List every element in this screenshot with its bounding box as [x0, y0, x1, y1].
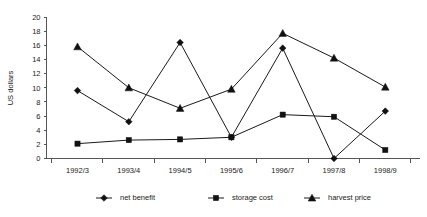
x-axis-label-1996-7: 1996/7: [271, 166, 294, 175]
diamond-marker: [101, 195, 108, 202]
data-point-harvest-price-1994-5: [176, 104, 184, 111]
x-axis-label-1997-8: 1997/8: [323, 166, 346, 175]
y-tick-label: 16: [32, 41, 40, 50]
data-point-storage-cost-1992-3: [75, 141, 80, 146]
x-axis-label-1998-9: 1998/9: [374, 166, 397, 175]
line-chart: US dollars 02468101214161820 1992/31993/…: [0, 0, 427, 217]
y-tick-label: 18: [32, 27, 40, 36]
legend-label-net-benefit: net benefit: [120, 193, 156, 202]
square-marker: [213, 195, 218, 200]
y-tick-label: 8: [36, 98, 40, 107]
series-line-harvest-price: [78, 33, 386, 108]
chart-container: US dollars 02468101214161820 1992/31993/…: [0, 0, 427, 217]
data-point-net-benefit-1993-4: [126, 118, 133, 125]
data-point-storage-cost-1997-8: [331, 114, 336, 119]
data-point-net-benefit-1994-5: [177, 39, 184, 46]
series-line-net-benefit: [78, 42, 386, 158]
data-point-storage-cost-1995-6: [229, 135, 234, 140]
y-axis-title: US dollars: [6, 70, 15, 105]
data-point-storage-cost-1998-9: [383, 147, 388, 152]
y-tick-label: 4: [36, 126, 40, 135]
y-axis-ticks: 02468101214161820: [32, 13, 46, 164]
x-axis-label-1995-6: 1995/6: [220, 166, 243, 175]
y-tick-label: 12: [32, 69, 40, 78]
legend-label-harvest-price: harvest price: [328, 193, 371, 202]
x-axis-ticks: [52, 159, 411, 163]
series-markers-group: [74, 29, 389, 161]
data-point-harvest-price-1996-7: [279, 29, 287, 36]
chart-legend: net benefitstorage costharvest price: [96, 193, 371, 202]
data-point-net-benefit-1996-7: [279, 45, 286, 52]
y-tick-label: 10: [32, 84, 40, 93]
data-point-harvest-price-1998-9: [382, 83, 390, 90]
data-point-storage-cost-1993-4: [126, 138, 131, 143]
y-tick-label: 14: [32, 55, 40, 64]
y-tick-label: 20: [32, 13, 40, 22]
y-tick-label: 2: [36, 140, 40, 149]
x-axis-label-1992-3: 1992/3: [66, 166, 89, 175]
series-line-storage-cost: [78, 115, 386, 150]
x-axis-label-1994-5: 1994/5: [169, 166, 192, 175]
data-point-net-benefit-1992-3: [74, 87, 81, 94]
legend-label-storage-cost: storage cost: [232, 193, 274, 202]
data-point-storage-cost-1994-5: [178, 137, 183, 142]
data-point-storage-cost-1996-7: [280, 112, 285, 117]
data-point-harvest-price-1997-8: [330, 54, 338, 61]
y-tick-label: 0: [36, 154, 40, 163]
data-point-harvest-price-1992-3: [74, 43, 82, 50]
x-axis-label-1993-4: 1993/4: [117, 166, 140, 175]
y-tick-label: 6: [36, 112, 40, 121]
x-axis-category-labels: 1992/31993/41994/51995/61996/71997/81998…: [66, 166, 397, 175]
